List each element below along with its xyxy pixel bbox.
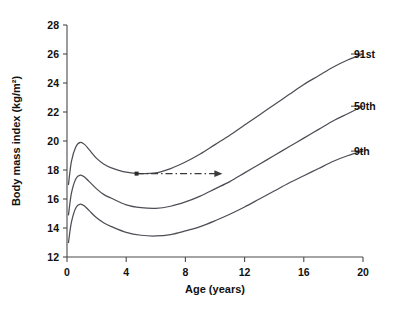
reference-arrow-annotation bbox=[135, 170, 223, 177]
x-tick-label-group: 048121620 bbox=[64, 266, 369, 278]
y-tick-label: 20 bbox=[47, 135, 59, 147]
centile-curves-group bbox=[68, 54, 363, 243]
x-axis-title: Age (years) bbox=[185, 283, 245, 295]
curve-label-9th: 9th bbox=[354, 145, 370, 157]
bmi-centile-chart: 121416182022242628 048121620 91st50th9th… bbox=[0, 0, 396, 312]
annotation-arrowhead bbox=[214, 170, 222, 177]
centile-curve-91st bbox=[68, 54, 363, 185]
y-tick-label: 18 bbox=[47, 164, 59, 176]
chart-canvas: 121416182022242628 048121620 91st50th9th… bbox=[0, 0, 396, 312]
x-tick-label: 12 bbox=[239, 266, 251, 278]
y-tick-label: 28 bbox=[47, 19, 59, 31]
centile-curve-50th bbox=[68, 106, 363, 215]
x-tick-group bbox=[67, 257, 363, 262]
y-tick-label: 14 bbox=[47, 222, 59, 234]
curve-label-91st: 91st bbox=[354, 48, 376, 60]
x-tick-label: 0 bbox=[64, 266, 70, 278]
y-tick-label: 16 bbox=[47, 193, 59, 205]
y-tick-label: 24 bbox=[47, 77, 59, 89]
axes-group bbox=[67, 25, 363, 257]
y-axis-title: Body mass index (kg/m²) bbox=[10, 76, 22, 207]
curve-label-50th: 50th bbox=[354, 100, 376, 112]
curve-label-group: 91st50th9th bbox=[354, 48, 376, 157]
y-tick-label: 26 bbox=[47, 48, 59, 60]
y-tick-label-group: 121416182022242628 bbox=[47, 19, 59, 263]
x-tick-label: 20 bbox=[357, 266, 369, 278]
y-tick-group bbox=[63, 25, 67, 257]
y-tick-label: 22 bbox=[47, 106, 59, 118]
x-tick-label: 4 bbox=[123, 266, 129, 278]
centile-curve-9th bbox=[68, 151, 363, 242]
y-tick-label: 12 bbox=[47, 251, 59, 263]
x-tick-label: 16 bbox=[298, 266, 310, 278]
x-tick-label: 8 bbox=[182, 266, 188, 278]
annotation-start-dot bbox=[135, 172, 139, 176]
